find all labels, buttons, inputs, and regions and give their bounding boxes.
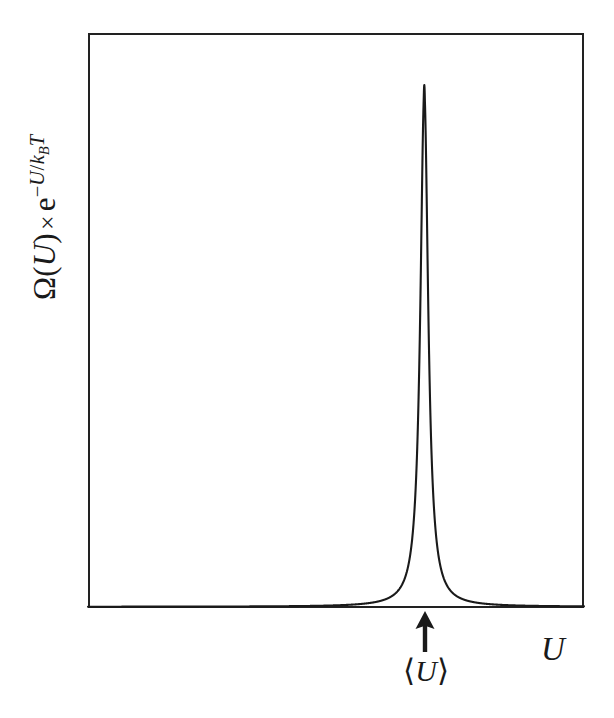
exponent-numerator: U <box>26 171 48 186</box>
exponent-group: −U/kBT <box>26 135 48 197</box>
up-arrow-icon <box>403 608 447 654</box>
mean-energy-label: ⟨U⟩ <box>403 652 447 689</box>
multiplication-sign: × <box>33 211 62 233</box>
x-axis-label: U <box>541 631 565 668</box>
angle-bracket-close: ⟩ <box>437 653 449 688</box>
angle-bracket-open: ⟨ <box>403 653 415 688</box>
y-axis-label: Ω(U)×e−U/kBT <box>14 0 76 300</box>
distribution-curve <box>88 33 584 608</box>
boltzmann-weighted-dos-figure: Ω(U)×e−U/kBT ⟨U⟩ U <box>0 0 614 718</box>
y-axis-label-text: Ω(U)×e−U/kBT <box>26 135 63 300</box>
open-paren: ( <box>28 266 63 277</box>
exponential-base: e <box>28 197 63 211</box>
temperature-symbol: T <box>26 135 48 146</box>
exponent-minus-sign: − <box>26 186 48 198</box>
exponent-slash: / <box>26 164 48 171</box>
boltzmann-constant-subscript: B <box>36 146 52 155</box>
boltzmann-constant-k: k <box>26 155 48 164</box>
omega-symbol: Ω <box>28 277 63 300</box>
mean-energy-variable: U <box>415 654 437 687</box>
peak-curve-path <box>88 85 584 607</box>
mean-energy-marker: ⟨U⟩ <box>403 608 447 704</box>
y-axis-variable: U <box>28 244 63 267</box>
close-paren: ) <box>28 233 63 244</box>
